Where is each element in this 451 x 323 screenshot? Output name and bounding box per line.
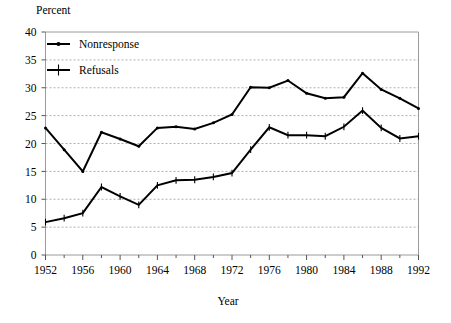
chart-container: 0510152025303540 19521956196019641968197… bbox=[0, 0, 451, 323]
y-tick-label-5: 5 bbox=[31, 221, 37, 233]
y-tick-label-20: 20 bbox=[25, 138, 37, 150]
y-tick-label-0: 0 bbox=[31, 249, 37, 261]
x-tick-label-1988: 1988 bbox=[370, 264, 393, 276]
data-point-marker bbox=[63, 148, 66, 151]
legend-label-refusals: Refusals bbox=[79, 64, 119, 76]
x-tick-label-1976: 1976 bbox=[258, 264, 281, 276]
x-tick-labels: 1952195619601964196819721976198019841988… bbox=[34, 264, 430, 276]
data-point-marker bbox=[324, 97, 327, 100]
data-point-marker bbox=[231, 113, 234, 116]
data-point-marker bbox=[361, 72, 364, 75]
y-tick-label-15: 15 bbox=[25, 166, 37, 178]
x-tick-label-1972: 1972 bbox=[221, 264, 244, 276]
x-tick-label-1984: 1984 bbox=[332, 264, 355, 276]
y-axis-title: Percent bbox=[36, 4, 71, 16]
legend-label-nonresponse: Nonresponse bbox=[79, 38, 139, 51]
y-tick-label-35: 35 bbox=[25, 54, 37, 66]
data-point-marker bbox=[212, 121, 215, 124]
data-point-marker bbox=[44, 126, 47, 129]
data-point-marker bbox=[156, 126, 159, 129]
data-point-marker bbox=[268, 86, 271, 89]
y-tick-label-25: 25 bbox=[25, 110, 37, 122]
data-point-marker bbox=[100, 131, 103, 134]
data-point-marker bbox=[342, 96, 345, 99]
data-point-marker bbox=[380, 88, 383, 91]
data-point-marker bbox=[81, 170, 84, 173]
x-axis-title: Year bbox=[217, 295, 238, 307]
y-tick-label-10: 10 bbox=[25, 193, 37, 205]
data-point-marker bbox=[305, 92, 308, 95]
data-point-marker bbox=[286, 79, 289, 82]
data-point-marker bbox=[137, 145, 140, 148]
y-tick-label-30: 30 bbox=[25, 82, 37, 94]
data-point-marker bbox=[193, 128, 196, 131]
x-tick-label-1960: 1960 bbox=[109, 264, 132, 276]
x-tick-label-1980: 1980 bbox=[295, 264, 318, 276]
x-tick-label-1968: 1968 bbox=[183, 264, 206, 276]
data-point-marker bbox=[249, 86, 252, 89]
line-chart: 0510152025303540 19521956196019641968197… bbox=[0, 0, 451, 323]
data-point-marker bbox=[417, 107, 420, 110]
legend-marker-dot bbox=[56, 42, 60, 46]
data-point-marker bbox=[175, 125, 178, 128]
x-tick-label-1992: 1992 bbox=[407, 264, 430, 276]
x-tick-label-1964: 1964 bbox=[146, 264, 169, 276]
y-tick-label-40: 40 bbox=[25, 26, 37, 38]
x-tick-label-1952: 1952 bbox=[34, 264, 57, 276]
x-tick-label-1956: 1956 bbox=[71, 264, 94, 276]
data-point-marker bbox=[119, 138, 122, 141]
data-point-marker bbox=[398, 97, 401, 100]
